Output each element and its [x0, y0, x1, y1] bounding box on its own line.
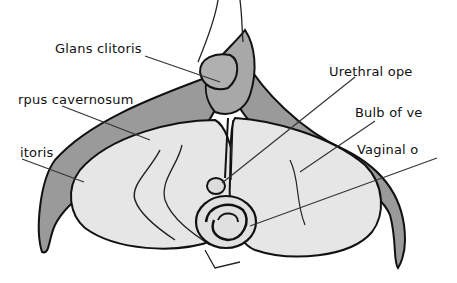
label-crus-clitoris: itoris [20, 146, 54, 159]
glans [200, 54, 237, 89]
vaginal-opening [196, 196, 256, 248]
label-corpus-cavernosum: rpus cavernosum [18, 93, 134, 106]
label-urethral-opening: Urethral ope [329, 65, 413, 78]
label-glans-clitoris: Glans clitoris [55, 42, 142, 55]
urethral-opening [207, 178, 225, 194]
label-bulb-of-vestibule: Bulb of ve [355, 106, 423, 119]
label-vaginal-opening: Vaginal o [357, 143, 418, 156]
